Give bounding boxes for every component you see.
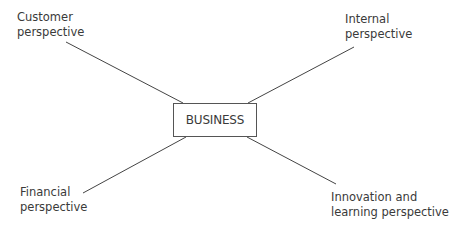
business-box: BUSINESS <box>173 103 257 137</box>
node-innovation-line1: Innovation and <box>331 190 449 205</box>
node-financial-line1: Financial <box>20 185 87 200</box>
node-innovation-line2: learning perspective <box>331 205 449 220</box>
node-internal-line2: perspective <box>345 27 412 42</box>
node-innovation-perspective: Innovation and learning perspective <box>331 190 449 220</box>
node-financial-perspective: Financial perspective <box>20 185 87 215</box>
node-financial-line2: perspective <box>20 200 87 215</box>
connector-internal <box>248 47 354 103</box>
node-internal-perspective: Internal perspective <box>345 12 412 42</box>
business-label: BUSINESS <box>186 113 244 127</box>
node-internal-line1: Internal <box>345 12 412 27</box>
connector-customer <box>66 42 183 103</box>
connector-innovation <box>247 137 336 184</box>
node-customer-line2: perspective <box>17 25 84 40</box>
node-customer-line1: Customer <box>17 10 84 25</box>
connector-financial <box>83 137 186 193</box>
node-customer-perspective: Customer perspective <box>17 10 84 40</box>
